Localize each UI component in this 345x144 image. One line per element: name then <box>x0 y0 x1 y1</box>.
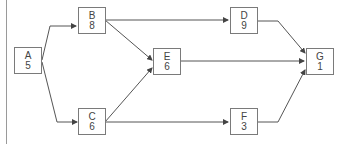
node-e-value: 6 <box>164 62 170 72</box>
node-e-label: E <box>164 52 171 62</box>
edge-a-b <box>42 26 76 60</box>
edge-b-e <box>105 20 152 60</box>
node-c: C 6 <box>78 108 106 135</box>
node-b-label: B <box>89 11 96 21</box>
node-a: A 5 <box>14 47 42 74</box>
node-a-label: A <box>25 51 32 61</box>
node-b-value: 8 <box>89 21 95 31</box>
node-c-label: C <box>88 112 95 122</box>
node-d-label: D <box>240 11 247 21</box>
node-e: E 6 <box>153 48 181 75</box>
node-g: G 1 <box>306 48 334 75</box>
node-g-label: G <box>316 52 324 62</box>
node-g-value: 1 <box>317 62 323 72</box>
node-d-value: 9 <box>241 21 247 31</box>
node-f: F 3 <box>230 108 258 135</box>
node-b: B 8 <box>78 7 106 34</box>
edge-d-g <box>258 21 305 53</box>
node-d: D 9 <box>230 7 258 34</box>
node-f-label: F <box>241 112 247 122</box>
edge-c-e <box>105 68 152 122</box>
node-a-value: 5 <box>25 61 31 71</box>
edge-f-g <box>258 70 305 122</box>
edge-a-c <box>42 62 77 122</box>
node-f-value: 3 <box>241 122 247 132</box>
node-c-value: 6 <box>89 122 95 132</box>
